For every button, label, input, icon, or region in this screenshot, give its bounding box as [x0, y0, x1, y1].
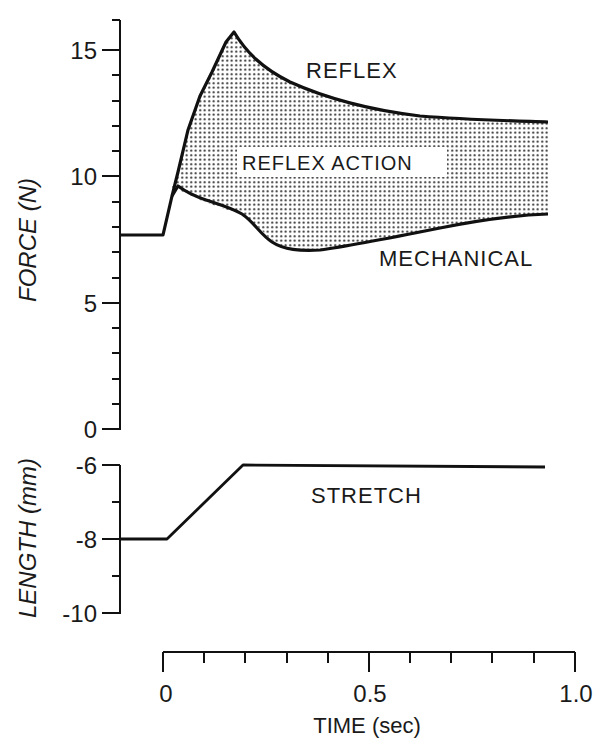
length-y-ticks: [102, 465, 120, 613]
time-ticks: [163, 652, 575, 672]
length-tick-neg6: -6: [76, 452, 97, 479]
time-tick-0-5: 0.5: [353, 680, 386, 707]
reflex-label: REFLEX: [306, 58, 398, 83]
time-tick-0: 0: [159, 680, 172, 707]
stretch-label: STRETCH: [311, 483, 422, 508]
time-tick-1-0: 1.0: [559, 680, 592, 707]
force-axis-title: FORCE (N): [14, 178, 41, 302]
length-tick-neg10: -10: [62, 600, 97, 627]
time-axis: 0 0.5 1.0 TIME (sec): [159, 652, 592, 738]
mechanical-label: MECHANICAL: [379, 246, 533, 271]
length-panel: -6 -8 -10 LENGTH (mm) STRETCH: [14, 452, 545, 627]
force-y-ticks: [102, 50, 120, 429]
force-tick-10: 10: [70, 163, 97, 190]
force-panel: 15 10 5 0 FORCE (N) REFLEX REFLEX ACTION…: [14, 20, 548, 443]
reflex-action-label: REFLEX ACTION: [242, 152, 413, 174]
length-axis-title: LENGTH (mm): [14, 458, 41, 618]
force-tick-5: 5: [84, 290, 97, 317]
chart-canvas: 15 10 5 0 FORCE (N) REFLEX REFLEX ACTION…: [0, 0, 599, 750]
length-tick-neg8: -8: [76, 526, 97, 553]
time-axis-title: TIME (sec): [313, 713, 421, 738]
force-tick-15: 15: [70, 37, 97, 64]
force-tick-0: 0: [84, 416, 97, 443]
